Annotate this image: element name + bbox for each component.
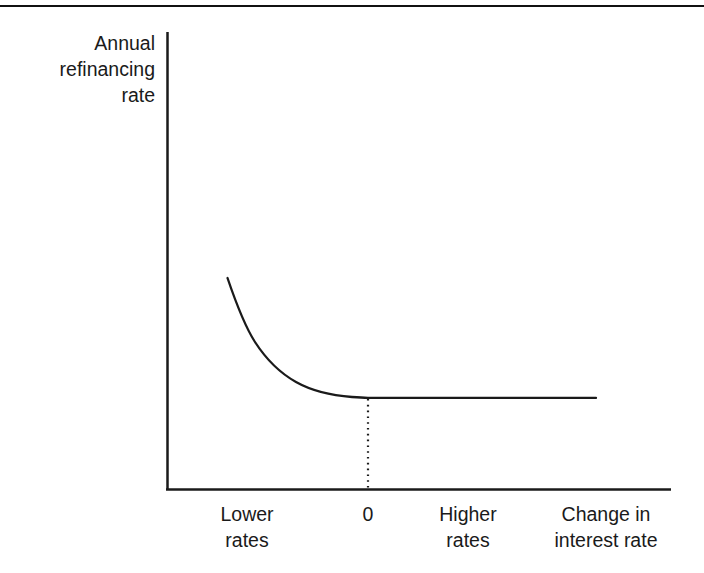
- x-axis-label: Change in interest rate: [520, 501, 692, 553]
- refinancing-rate-curve: [228, 278, 597, 398]
- x-tick-label-higher-rates: Higher rates: [413, 501, 523, 553]
- y-axis-label: Annual refinancing rate: [0, 30, 155, 108]
- x-tick-label-zero: 0: [343, 501, 393, 527]
- x-tick-label-lower-rates: Lower rates: [192, 501, 302, 553]
- figure-container: Annual refinancing rate Lower rates 0 Hi…: [0, 0, 704, 573]
